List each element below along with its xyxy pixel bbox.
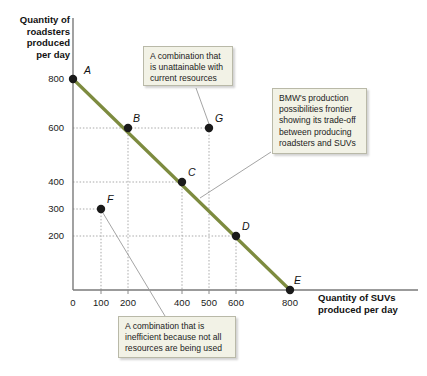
point-marker-c bbox=[178, 178, 186, 186]
callout-inefficient: A combination that is inefficient becaus… bbox=[118, 316, 236, 358]
leader-unattainable-to-g bbox=[196, 88, 209, 124]
callout-ppf-description: BMW's production possibilities frontier … bbox=[272, 88, 367, 154]
x-tick-label-500: 500 bbox=[195, 297, 223, 308]
y-tick-label-600: 600 bbox=[36, 122, 64, 133]
point-label-g: G bbox=[215, 112, 223, 124]
x-axis-title: Quantity of SUVs produced per day bbox=[318, 292, 422, 315]
point-marker-b bbox=[124, 124, 132, 132]
ppf-chart-figure: Quantity of roadsters produced per day Q… bbox=[0, 0, 427, 376]
point-label-f: F bbox=[107, 193, 113, 205]
x-tick-label-200: 200 bbox=[114, 297, 142, 308]
y-axis-title: Quantity of roadsters produced per day bbox=[8, 14, 70, 60]
leader-ppf-to-frontier bbox=[200, 152, 271, 198]
point-marker-e bbox=[286, 286, 294, 294]
point-marker-a bbox=[69, 75, 77, 83]
point-label-e: E bbox=[294, 274, 301, 286]
x-tick-label-600: 600 bbox=[222, 297, 250, 308]
x-tick-label-800: 800 bbox=[276, 297, 304, 308]
point-marker-g bbox=[205, 124, 213, 132]
point-marker-f bbox=[97, 205, 105, 213]
point-label-b: B bbox=[133, 112, 140, 124]
point-label-a: A bbox=[84, 64, 91, 76]
x-tick-label-400: 400 bbox=[168, 297, 196, 308]
y-tick-label-800: 800 bbox=[36, 73, 64, 84]
y-tick-label-200: 200 bbox=[36, 230, 64, 241]
point-label-c: C bbox=[188, 166, 196, 178]
callout-unattainable: A combination that is unattainable with … bbox=[143, 46, 233, 86]
y-tick-label-400: 400 bbox=[36, 176, 64, 187]
x-tick-label-0: 0 bbox=[59, 297, 87, 308]
x-tick-label-100: 100 bbox=[87, 297, 115, 308]
point-marker-d bbox=[232, 232, 240, 240]
y-tick-label-300: 300 bbox=[36, 203, 64, 214]
point-label-d: D bbox=[242, 220, 250, 232]
